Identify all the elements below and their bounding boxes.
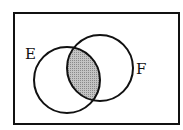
- set-e-label: E: [25, 45, 36, 63]
- set-f-label: F: [136, 60, 146, 78]
- venn-diagram: E F: [0, 0, 183, 130]
